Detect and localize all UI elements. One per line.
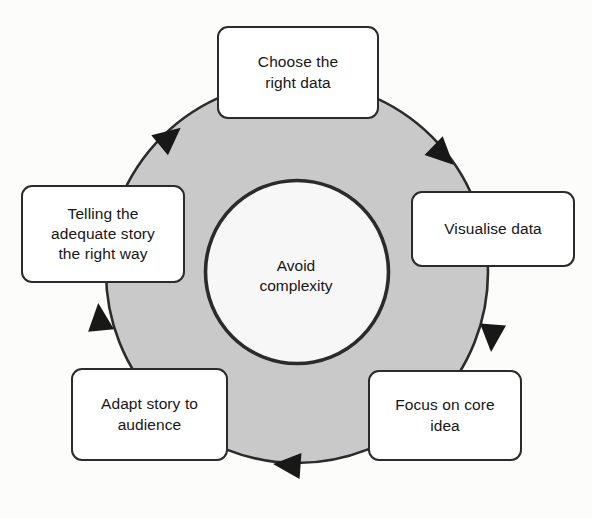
node-telling-the-adequate-story-the-right-way[interactable]: Telling the adequate story the right way	[21, 185, 185, 283]
node-label: Focus on core idea	[395, 395, 495, 435]
node-label: Telling the adequate story the right way	[51, 204, 155, 264]
hub-circle	[206, 181, 388, 363]
node-label: Adapt story to audience	[101, 394, 198, 434]
cycle-diagram: Avoid complexity Choose the right data V…	[0, 0, 592, 518]
node-label: Choose the right data	[258, 52, 338, 92]
node-visualise-data[interactable]: Visualise data	[411, 191, 575, 267]
node-adapt-story-to-audience[interactable]: Adapt story to audience	[71, 368, 228, 461]
node-choose-the-right-data[interactable]: Choose the right data	[217, 26, 379, 119]
node-label: Visualise data	[444, 219, 542, 239]
node-focus-on-core-idea[interactable]: Focus on core idea	[368, 370, 522, 461]
